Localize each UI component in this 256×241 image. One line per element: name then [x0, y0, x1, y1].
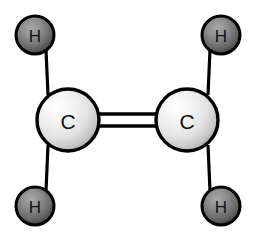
hydrogen-atom-label: H [215, 198, 227, 217]
carbon-atom-label: C [179, 110, 194, 133]
atom-carbon-left: C [37, 89, 99, 151]
molecule-diagram: H H H H C C [0, 0, 256, 241]
bond-carbon1-hydrogen3 [46, 145, 48, 191]
atom-hydrogen-top-right: H [202, 16, 240, 54]
bond-carbon2-hydrogen2 [208, 50, 210, 95]
hydrogen-atom-label: H [29, 198, 41, 217]
atom-hydrogen-bottom-left: H [16, 187, 54, 225]
carbon-atom-label: C [60, 110, 75, 133]
atom-hydrogen-bottom-right: H [202, 187, 240, 225]
atom-carbon-right: C [156, 89, 218, 151]
bond-carbon2-hydrogen4 [208, 145, 210, 191]
hydrogen-atom-label: H [29, 27, 41, 46]
bond-carbon1-hydrogen1 [46, 50, 48, 95]
atom-hydrogen-top-left: H [16, 16, 54, 54]
molecule-canvas: H H H H C C [0, 0, 256, 241]
hydrogen-atom-label: H [215, 27, 227, 46]
